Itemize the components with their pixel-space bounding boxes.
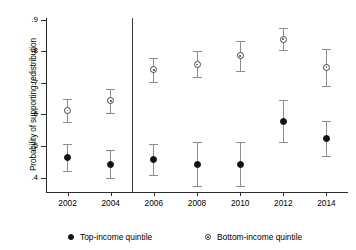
data-point[interactable] (237, 161, 244, 168)
error-bar-cap (149, 175, 158, 176)
data-point[interactable] (64, 154, 71, 161)
open-circle-icon (205, 234, 211, 240)
legend-item-top-income-quintile[interactable]: Top-income quintile (68, 232, 152, 242)
legend-item-bottom-income-quintile[interactable]: Bottom-income quintile (205, 232, 302, 242)
error-bar-cap (193, 186, 202, 187)
error-bar-cap (322, 121, 331, 122)
series-top-income-quintile (0, 0, 356, 250)
error-bar-cap (322, 156, 331, 157)
error-bar-cap (236, 142, 245, 143)
error-bar-cap (279, 100, 288, 101)
data-point[interactable] (150, 156, 157, 163)
data-point[interactable] (280, 118, 287, 125)
filled-circle-icon (68, 234, 74, 240)
chart-figure: Probability of supporting redistribution… (0, 0, 356, 250)
data-point[interactable] (194, 161, 201, 168)
error-bar-cap (63, 171, 72, 172)
chart-legend: Top-income quintile Bottom-income quinti… (0, 228, 356, 246)
error-bar-cap (149, 144, 158, 145)
error-bar-cap (106, 178, 115, 179)
error-bar-cap (236, 186, 245, 187)
error-bar-cap (279, 142, 288, 143)
error-bar-cap (106, 150, 115, 151)
legend-label-top-income-quintile: Top-income quintile (80, 232, 152, 242)
legend-label-bottom-income-quintile: Bottom-income quintile (217, 232, 302, 242)
data-point[interactable] (107, 161, 114, 168)
data-point[interactable] (323, 135, 330, 142)
error-bar-cap (63, 144, 72, 145)
error-bar-cap (193, 142, 202, 143)
